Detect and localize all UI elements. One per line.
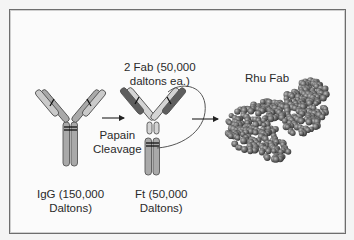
fab-pair-label: 2 Fab (50,000 daltons ea.) bbox=[124, 60, 196, 88]
fab-pair-label-line2: daltons ea.) bbox=[124, 74, 196, 88]
fab-pair-label-line1: 2 Fab (50,000 bbox=[124, 60, 196, 74]
rhu-fab-molecule-icon bbox=[225, 77, 330, 163]
ft-label: Ft (50,000 Daltons) bbox=[135, 187, 187, 215]
igg-label-line1: IgG (150,000 bbox=[37, 187, 104, 201]
ft-label-line1: Ft (50,000 bbox=[135, 187, 187, 201]
igg-label: IgG (150,000 Daltons) bbox=[37, 187, 104, 215]
rhu-fab-label: Rhu Fab bbox=[245, 71, 289, 85]
papain-cleavage-label: Papain Cleavage bbox=[93, 128, 142, 156]
papain-label-line1: Papain bbox=[93, 128, 142, 142]
ft-label-line2: Daltons) bbox=[135, 201, 187, 215]
igg-label-line2: Daltons) bbox=[37, 201, 104, 215]
papain-label-line2: Cleavage bbox=[93, 142, 142, 156]
